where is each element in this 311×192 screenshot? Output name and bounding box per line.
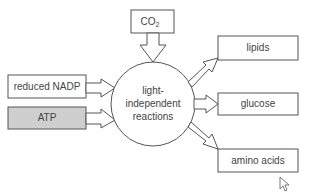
glucose-arrow-icon — [194, 95, 218, 113]
co2-arrow-icon — [140, 33, 166, 62]
glucose-node: glucose — [218, 93, 298, 115]
lipids-arrow-icon — [188, 58, 218, 87]
lipids-node: lipids — [218, 36, 298, 60]
amino-acids-arrow-icon — [188, 122, 218, 149]
atp-arrow-icon — [86, 109, 115, 128]
reduced-nadp-label: reduced NADP — [14, 81, 81, 92]
diagram-canvas: CO2 reduced NADP ATP light- independent … — [0, 0, 311, 192]
amino-acids-node: amino acids — [218, 149, 298, 172]
atp-node: ATP — [8, 107, 86, 129]
nadp-arrow-icon — [86, 79, 115, 97]
atp-label: ATP — [38, 112, 57, 123]
reduced-nadp-node: reduced NADP — [8, 75, 86, 98]
glucose-label: glucose — [241, 98, 276, 109]
amino-acids-label: amino acids — [231, 155, 284, 166]
center-label-line3: reactions — [133, 111, 174, 122]
lipids-label: lipids — [247, 42, 270, 53]
center-label-line2: independent — [125, 98, 180, 109]
mouse-cursor-icon — [280, 177, 289, 191]
center-label-line1: light- — [142, 85, 164, 96]
light-independent-reactions-node: light- independent reactions — [111, 62, 195, 146]
co2-node: CO2 — [131, 10, 174, 33]
